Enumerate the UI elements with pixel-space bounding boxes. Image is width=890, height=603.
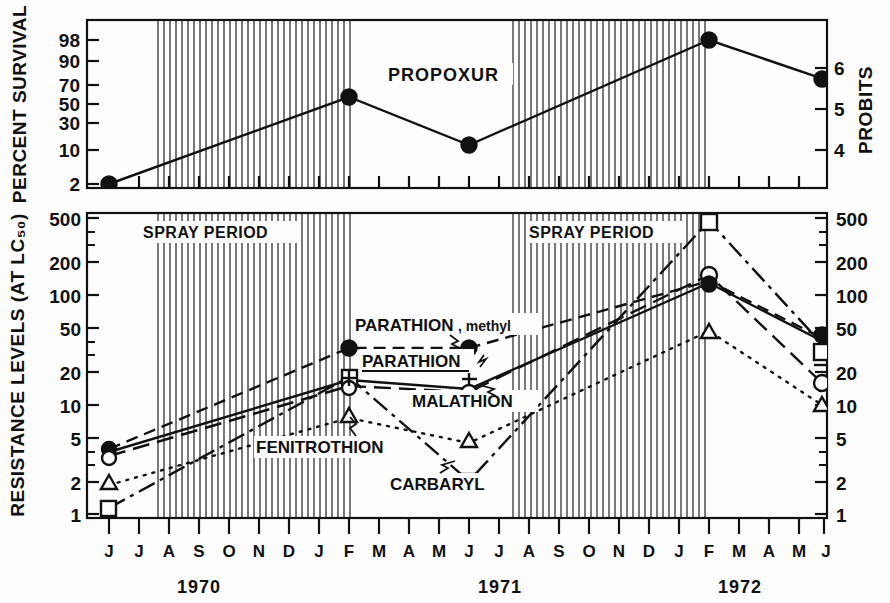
bottom-y-tick-5: 5: [70, 429, 81, 450]
bottom-y-right-tick-1: 1: [836, 505, 847, 526]
propoxur-marker-jun-1971: [462, 138, 477, 153]
month-label-10: A: [403, 542, 415, 561]
propoxur-marker-feb-1972: [702, 33, 717, 48]
bottom-y-right-tick-200: 200: [836, 253, 868, 274]
top-y-tick-70: 70: [59, 75, 80, 96]
month-label-22: A: [763, 542, 775, 561]
month-label-20: F: [704, 542, 714, 561]
bottom-y-tick-10: 10: [60, 396, 81, 417]
top-probit-tick-6: 6: [834, 58, 845, 79]
month-label-8: F: [344, 542, 354, 561]
bottom-y-tick-100: 100: [49, 286, 81, 307]
month-label-16: O: [582, 542, 595, 561]
bottom-y-tick-50: 50: [60, 319, 81, 340]
propoxur-label: PROPOXUR: [388, 65, 499, 85]
month-label-3: S: [193, 542, 204, 561]
bottom-y-right-tick-2: 2: [836, 473, 847, 494]
month-label-0: J: [104, 542, 113, 561]
bottom-y-right-tick-50: 50: [836, 319, 857, 340]
month-label-15: S: [553, 542, 564, 561]
bottom-y-right-tick-10: 10: [836, 396, 857, 417]
month-label-17: N: [613, 542, 625, 561]
fenitrothion-label: FENITROTHION: [256, 438, 384, 457]
bottom-y-tick-1: 1: [70, 505, 81, 526]
percent-survival-axis-title: PERCENT SURVIVAL: [9, 5, 30, 203]
figure-background: [0, 0, 890, 603]
bottom-y-tick-20: 20: [60, 363, 81, 384]
month-label-7: J: [314, 542, 323, 561]
top-y-tick-2: 2: [69, 174, 80, 195]
top-probit-tick-4: 4: [834, 140, 845, 161]
month-label-23: M: [792, 542, 806, 561]
bottom-y-right-tick-500: 500: [836, 209, 868, 230]
month-label-14: A: [523, 542, 535, 561]
top-probit-tick-5: 5: [834, 99, 845, 120]
bottom-y-right-tick-5: 5: [836, 429, 847, 450]
month-label-6: D: [283, 542, 295, 561]
month-label-19: J: [674, 542, 683, 561]
top-y-tick-50: 50: [59, 94, 80, 115]
month-label-13: J: [494, 542, 503, 561]
parathion-marker-feb-1972: [701, 214, 717, 230]
top-y-tick-30: 30: [59, 113, 80, 134]
figure-page: 98 90 70 50 30 10 2 6 5 4: [0, 0, 890, 603]
top-y-tick-10: 10: [59, 140, 80, 161]
month-label-12: J: [464, 542, 473, 561]
spray-period-2-label: SPRAY PERIOD: [529, 224, 654, 241]
bottom-y-tick-2: 2: [70, 473, 81, 494]
bottom-y-tick-200: 200: [49, 253, 81, 274]
top-chart-y-axis-right-labels: 6 5 4: [834, 58, 845, 161]
month-label-21: M: [732, 542, 746, 561]
month-label-18: D: [643, 542, 655, 561]
year-label-1971: 1971: [478, 577, 522, 597]
carbaryl-label: CARBARYL: [390, 475, 485, 494]
month-label-4: O: [222, 542, 235, 561]
malathion-marker-jun-1970: [102, 451, 116, 465]
year-label-1970: 1970: [177, 577, 221, 597]
probits-axis-title: PROBITS: [855, 66, 876, 154]
parathion-label: PARATHION: [362, 352, 461, 371]
parathion-methyl-label-sub: , methyl: [458, 318, 511, 334]
resistance-figure: 98 90 70 50 30 10 2 6 5 4: [0, 0, 890, 603]
top-y-tick-90: 90: [59, 51, 80, 72]
parathion-methyl-marker-feb-1971: [342, 341, 357, 356]
resistance-levels-axis-title: RESISTANCE LEVELS (AT LC₅₀): [7, 213, 28, 516]
parathion-methyl-label-main: PARATHION: [355, 316, 454, 335]
bottom-y-right-tick-100: 100: [836, 286, 868, 307]
month-label-5: N: [253, 542, 265, 561]
month-label-2: A: [163, 542, 175, 561]
bottom-y-right-tick-20: 20: [836, 363, 857, 384]
parathion-annotation: PARATHION: [360, 349, 486, 373]
year-label-1972: 1972: [718, 577, 762, 597]
malathion-label: MALATHION: [412, 392, 513, 411]
top-y-tick-98: 98: [59, 30, 80, 51]
propoxur-marker-feb-1971: [342, 90, 357, 105]
month-label-24: J: [821, 542, 830, 561]
month-label-1: J: [134, 542, 143, 561]
month-label-9: M: [372, 542, 386, 561]
parathion-marker-jun-1970: [101, 501, 116, 516]
month-label-11: M: [432, 542, 446, 561]
bottom-y-tick-500: 500: [49, 209, 81, 230]
spray-period-1-label: SPRAY PERIOD: [143, 224, 268, 241]
